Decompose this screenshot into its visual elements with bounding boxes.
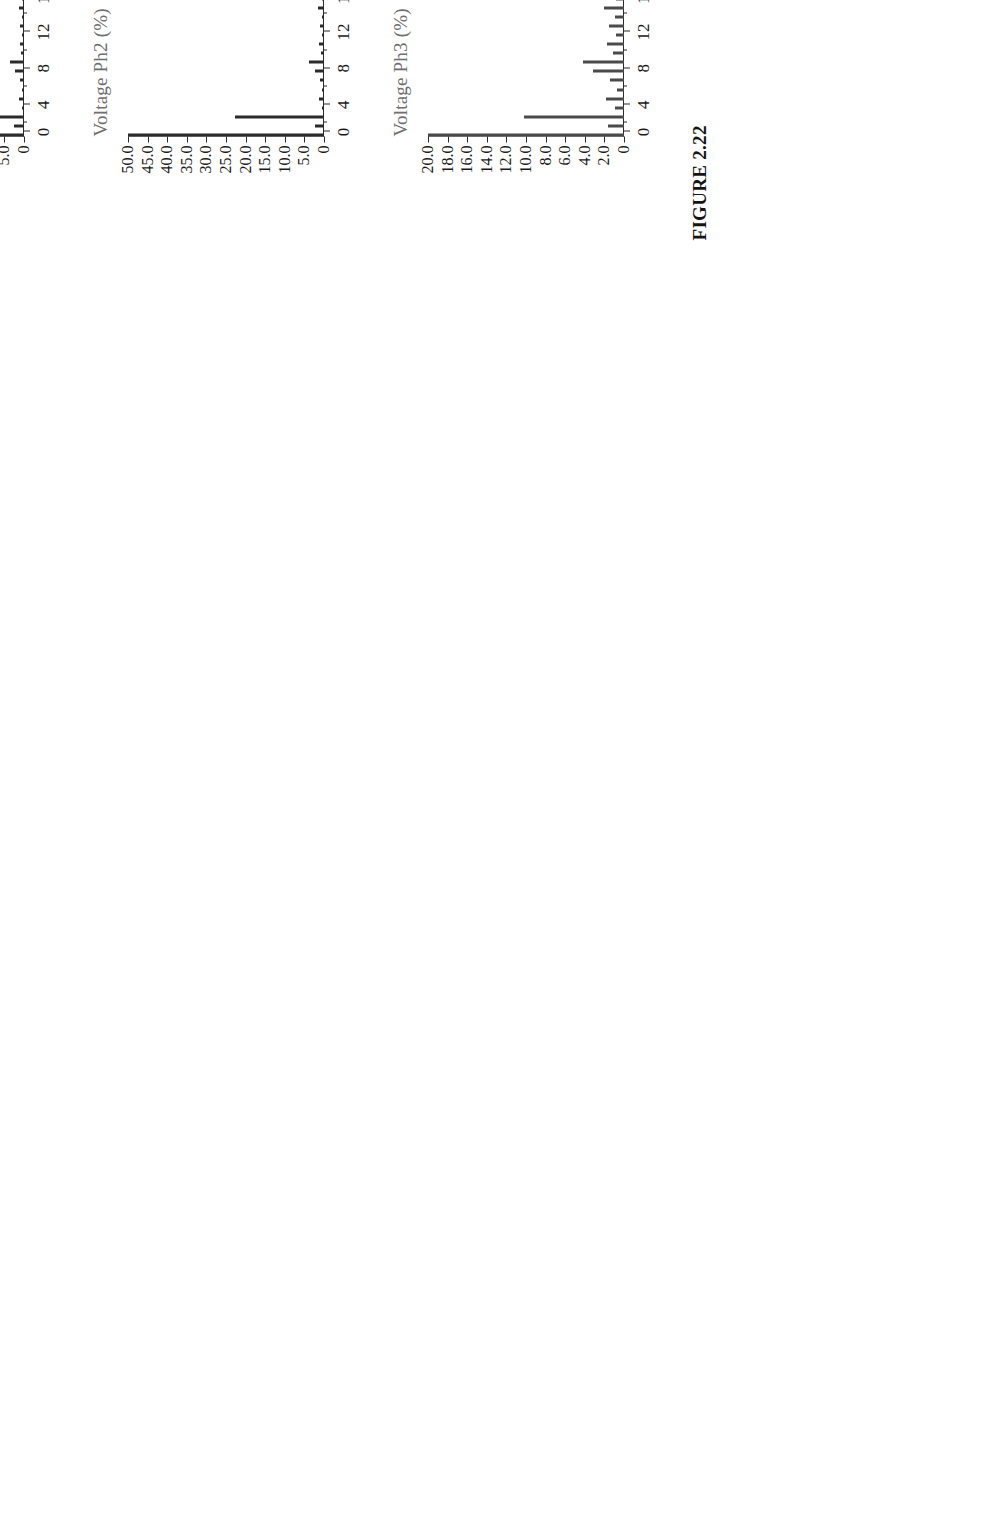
y-tick-5 [4, 137, 5, 143]
x-minor-tick-10 [624, 49, 627, 50]
y-tick-0 [624, 137, 625, 143]
y-tick-0 [324, 137, 325, 143]
x-tick-label-16: 16 [334, 0, 354, 4]
y-tick-18 [447, 137, 448, 143]
bar-harmonic-6 [322, 88, 324, 91]
bar-harmonic-9 [582, 61, 623, 64]
chart-title-voltage-ph3: Voltage Ph3 (%) [390, 8, 412, 136]
y-tick-label-0: 0 [15, 146, 33, 154]
panel-header: Voltage Ph3 (%)Thd = 19.42 [386, 0, 426, 211]
plot-area-voltage-ph2: 04812162024283236404448525660thd05.010.0… [128, 0, 324, 137]
x-tick-0 [24, 131, 30, 132]
section-voltages: Voltages Voltage Ph1 (%)Thd = 32.3304812… [0, 0, 725, 211]
bar-harmonic-14 [321, 15, 323, 18]
x-tick-label-8: 8 [334, 64, 354, 73]
bar-harmonic-4 [321, 106, 323, 109]
plot-area-voltage-ph3: 04812162024283236404448525660thd02.04.06… [428, 0, 624, 137]
bar-harmonic-12 [616, 34, 624, 37]
y-tick-label-14: 14.0 [477, 146, 495, 174]
x-tick-label-4: 4 [334, 100, 354, 109]
x-minor-tick-2 [624, 122, 627, 123]
bar-harmonic-11 [19, 43, 23, 46]
x-minor-tick-6 [624, 86, 627, 87]
x-tick-label-12: 12 [334, 23, 354, 40]
bar-harmonic-2 [608, 124, 624, 127]
y-tick-label-50: 50.0 [119, 146, 137, 174]
bar-harmonic-10 [21, 52, 24, 55]
y-tick-40 [167, 137, 168, 143]
y-tick-10 [526, 137, 527, 143]
bar-harmonic-12 [321, 34, 323, 37]
y-tick-30 [206, 137, 207, 143]
rotated-page-container: Voltages Voltage Ph1 (%)Thd = 32.3304812… [0, 0, 725, 267]
bar-harmonic-10 [320, 52, 323, 55]
x-minor-tick-10 [24, 49, 27, 50]
x-minor-tick-6 [24, 86, 27, 87]
bar-harmonic-7 [610, 79, 624, 82]
x-minor-tick-14 [24, 13, 27, 14]
bar-harmonic-9 [309, 61, 324, 64]
bar-harmonic-4 [615, 106, 624, 109]
y-tick-6 [565, 137, 566, 143]
bar-harmonic-3 [524, 115, 624, 118]
bar-harmonic-2 [13, 124, 23, 127]
bar-harmonic-3 [235, 115, 324, 118]
x-tick-label-0: 0 [34, 128, 54, 137]
x-tick-label-8: 8 [634, 64, 654, 73]
chart-panel-voltage-ph1: Voltage Ph1 (%)Thd = 32.3304812162024283… [0, 0, 86, 211]
y-tick-label-30: 30.0 [197, 146, 215, 174]
y-tick-35 [186, 137, 187, 143]
y-tick-8 [545, 137, 546, 143]
plot-area-voltage-ph1: 04812162024283236404448525660thd05.010.0… [0, 0, 24, 137]
bar-harmonic-14 [615, 15, 624, 18]
x-tick-0 [624, 131, 630, 132]
bar-harmonic-14 [21, 15, 23, 18]
bar-harmonic-10 [613, 52, 624, 55]
bar-harmonic-13 [320, 24, 324, 27]
y-tick-45 [147, 137, 148, 143]
bar-harmonic-3 [0, 115, 24, 118]
bar-harmonic-8 [15, 70, 24, 73]
x-tick-12 [24, 31, 30, 32]
y-tick-label-15: 15.0 [256, 146, 274, 174]
y-tick-label-12: 12.0 [497, 146, 515, 174]
x-tick-label-16: 16 [34, 0, 54, 4]
y-tick-20 [428, 137, 429, 143]
y-tick-label-5: 5.0 [0, 146, 13, 166]
x-tick-label-12: 12 [34, 23, 54, 40]
x-tick-8 [24, 67, 30, 68]
y-tick-label-16: 16.0 [458, 146, 476, 174]
bar-harmonic-15 [18, 6, 23, 9]
figure-caption: FIGURE 2.22 [689, 125, 711, 240]
bar-harmonic-4 [22, 106, 24, 109]
y-tick-25 [226, 137, 227, 143]
bar-harmonic-15 [318, 6, 324, 9]
y-tick-label-20: 20.0 [419, 146, 437, 174]
bar-harmonic-7 [320, 79, 324, 82]
x-minor-tick-2 [24, 122, 27, 123]
x-tick-4 [324, 104, 330, 105]
bar-harmonic-5 [18, 97, 23, 100]
x-minor-tick-10 [324, 49, 327, 50]
x-tick-0 [324, 131, 330, 132]
y-tick-50 [128, 137, 129, 143]
y-tick-label-4: 4.0 [575, 146, 593, 166]
x-minor-tick-2 [324, 122, 327, 123]
y-tick-label-6: 6.0 [556, 146, 574, 166]
chart-panel-voltage-ph3: Voltage Ph3 (%)Thd = 19.4204812162024283… [386, 0, 686, 211]
bar-harmonic-15 [604, 6, 624, 9]
y-tick-16 [467, 137, 468, 143]
bar-harmonic-5 [319, 97, 324, 100]
x-tick-4 [24, 104, 30, 105]
x-tick-label-4: 4 [34, 100, 54, 109]
bars-group [0, 0, 24, 137]
y-tick-label-18: 18.0 [438, 146, 456, 174]
bar-harmonic-2 [314, 124, 323, 127]
x-tick-label-16: 16 [634, 0, 654, 4]
chart-panel-voltage-ph2: Voltage Ph2 (%)Thd = 31.8704812162024283… [86, 0, 386, 211]
y-tick-0 [24, 137, 25, 143]
y-tick-label-40: 40.0 [158, 146, 176, 174]
bar-harmonic-8 [592, 70, 623, 73]
x-tick-label-4: 4 [634, 100, 654, 109]
bar-harmonic-6 [22, 88, 24, 91]
